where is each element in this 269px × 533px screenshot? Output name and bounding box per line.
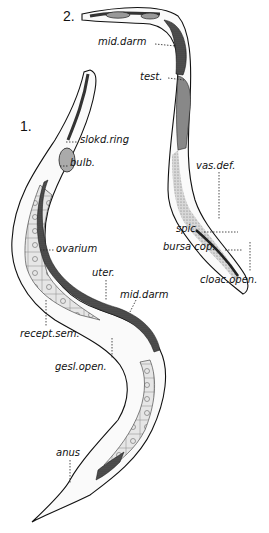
- label-uter: uter.: [92, 267, 115, 278]
- figure-2-number: 2.: [63, 8, 75, 24]
- label-mid-darm-1: mid.darm: [120, 289, 169, 300]
- label-anus: anus: [56, 447, 80, 458]
- figure-1-number: 1.: [20, 118, 32, 134]
- label-recept-sem: recept.sem.: [20, 328, 80, 339]
- label-slokd-ring: slokd.ring: [80, 134, 129, 145]
- nematode-diagram: 2. 1. mid.darm test. vas.def. spic. burs…: [0, 0, 269, 533]
- label-spic: spic.: [176, 223, 199, 234]
- label-vas-def: vas.def.: [196, 160, 235, 171]
- label-test: test.: [140, 71, 162, 82]
- label-mid-darm-2: mid.darm: [98, 36, 147, 47]
- label-bursa-cop: bursa cop.: [163, 241, 215, 252]
- label-bulb: bulb.: [70, 157, 95, 168]
- label-ovarium: ovarium: [56, 243, 97, 254]
- label-cloac-open: cloac.open.: [200, 274, 257, 285]
- label-gesl-open: gesl.open.: [55, 361, 107, 372]
